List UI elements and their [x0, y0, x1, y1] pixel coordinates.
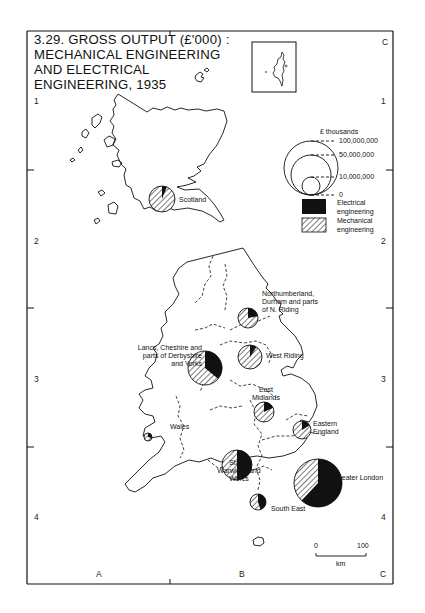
legend-mechanical-line1: Mechanical: [337, 217, 372, 226]
legend-unit-label: £ thousands: [320, 128, 358, 137]
label-east-midlands: East Midlands: [250, 386, 282, 402]
label-wales: Wales: [170, 423, 189, 431]
title-line-4: ENGINEERING, 1935: [34, 77, 230, 92]
label-northumberland: Northumberland, Durham and parts of N. R…: [262, 290, 318, 314]
scale-bar: [316, 553, 366, 556]
grid-row-3-left: 3: [34, 374, 39, 384]
mechanical-swatch: [302, 218, 326, 232]
label-west-riding: West Riding: [266, 352, 304, 360]
label-lancs: Lancs, Cheshire and parts of Derbyshire …: [110, 344, 202, 368]
grid-row-4-right: 4: [381, 512, 386, 522]
scale-start: 0: [314, 542, 318, 551]
scale-end: 100: [357, 542, 369, 551]
grid-col-c: C: [380, 569, 386, 579]
legend-electrical-line2: engineering: [337, 208, 374, 217]
legend-size-10m: 10,000,000: [339, 173, 374, 182]
map-title: 3.29. GROSS OUTPUT (£'000) : MECHANICAL …: [34, 32, 230, 92]
pie-west-riding: [238, 345, 262, 369]
electrical-swatch: [302, 199, 326, 214]
grid-row-2-right: 2: [381, 236, 386, 246]
grid-row-2-left: 2: [34, 236, 39, 246]
label-staffs: Staffs, Warwicks and Worcs: [214, 459, 264, 483]
legend-mechanical-line2: engineering: [337, 226, 374, 235]
label-south-east: South East: [271, 505, 305, 513]
scale-unit: km: [336, 560, 345, 569]
pie-greater-london: [294, 459, 342, 507]
grid-col-c-top: C: [382, 37, 388, 47]
pie-south-east: [250, 494, 266, 510]
grid-row-4-left: 4: [34, 512, 39, 522]
legend-swatches: [302, 199, 326, 232]
title-line-2: MECHANICAL ENGINEERING: [34, 47, 230, 62]
legend-size-50m: 50,000,000: [339, 151, 374, 160]
grid-row-1-right: 1: [381, 96, 386, 106]
label-eastern-england: Eastern England: [313, 420, 339, 436]
legend-size-circles: [284, 141, 338, 195]
title-line-3: AND ELECTRICAL: [34, 62, 230, 77]
shetland-inset: [252, 42, 296, 92]
legend-size-100m: 100,000,000: [339, 137, 378, 146]
pie-wales: [144, 433, 152, 441]
pie-scotland: [149, 186, 175, 212]
label-greater-london: Greater London: [334, 474, 383, 482]
map-frame: [27, 31, 393, 584]
title-line-1: 3.29. GROSS OUTPUT (£'000) :: [34, 32, 230, 47]
grid-row-1-left: 1: [34, 96, 39, 106]
grid-col-a: A: [96, 569, 102, 579]
grid-col-b: B: [239, 569, 245, 579]
pie-northumberland-durham-and-parts-of-n-riding: [238, 308, 258, 328]
pie-east-midlands: [254, 402, 274, 422]
legend-electrical-line1: Electrical: [337, 199, 365, 208]
grid-row-3-right: 3: [381, 374, 386, 384]
pie-eastern-england: [293, 421, 311, 439]
label-scotland: Scotland: [179, 196, 206, 204]
